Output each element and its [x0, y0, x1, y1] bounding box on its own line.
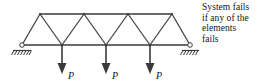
- load-arrow-2: P: [102, 45, 119, 81]
- load-label-2: P: [111, 70, 118, 81]
- load-arrow-1: P: [58, 45, 75, 81]
- caption-line-1: System fails: [202, 2, 269, 13]
- web-member-diagonal-5: [106, 14, 128, 45]
- truss-web-members: [22, 14, 190, 45]
- web-member-diagonal-6: [128, 14, 150, 45]
- web-member-diagonal-3: [62, 14, 84, 45]
- roller-support-hinge-icon: [188, 43, 193, 48]
- web-member-diagonal-4: [84, 14, 106, 45]
- load-label-1: P: [67, 70, 74, 81]
- roller-support-hatching: [181, 51, 199, 56]
- caption-line-2: if any of the: [202, 13, 269, 24]
- web-member-diagonal-8: [172, 14, 190, 45]
- load-label-3: P: [155, 70, 162, 81]
- pin-support-hatching: [12, 51, 32, 56]
- caption-line-4: fails: [202, 34, 269, 45]
- web-member-diagonal-7: [150, 14, 172, 45]
- load-arrow-3: P: [146, 45, 163, 81]
- joint-top-2: [83, 13, 85, 15]
- caption-line-3: elements: [202, 23, 269, 34]
- load-arrow-head: [102, 63, 111, 74]
- load-arrow-head: [58, 63, 67, 74]
- pin-support-hinge-icon: [20, 43, 25, 48]
- load-arrow-head: [146, 63, 155, 74]
- annotation-caption: System fails if any of the elements fail…: [202, 2, 269, 44]
- joint-top-3: [127, 13, 129, 15]
- joint-top-4: [171, 13, 173, 15]
- web-member-diagonal-2: [40, 14, 62, 45]
- truss-figure: P P P System fails if any of the element…: [0, 0, 269, 84]
- joint-top-1: [39, 13, 41, 15]
- truss-chords: [22, 14, 190, 45]
- web-member-diagonal-1: [22, 14, 40, 45]
